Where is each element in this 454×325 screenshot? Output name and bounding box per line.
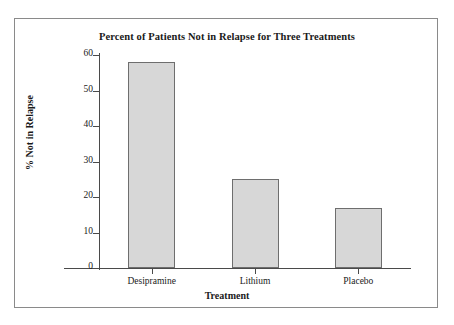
cut-off-text: ·· ···· ·· ·· bbox=[36, 0, 81, 3]
x-axis-tick bbox=[255, 269, 256, 274]
y-axis-tick-label-wrap: 20 bbox=[25, 197, 93, 198]
y-axis-tick bbox=[93, 233, 99, 234]
chart-title: Percent of Patients Not in Relapse for T… bbox=[15, 31, 439, 42]
y-axis-tick bbox=[93, 91, 99, 92]
x-axis-tick-label: Lithium bbox=[195, 276, 315, 286]
y-axis-tick-label: 30 bbox=[33, 155, 93, 165]
bar bbox=[232, 179, 279, 268]
y-axis-tick-label-wrap: 60 bbox=[25, 55, 93, 56]
bar bbox=[335, 208, 382, 268]
plot-area bbox=[100, 55, 410, 268]
x-axis-tick-label: Desipramine bbox=[92, 276, 212, 286]
y-axis-tick bbox=[93, 268, 99, 269]
y-axis-tick bbox=[93, 55, 99, 56]
y-axis-tick-label-wrap: 10 bbox=[25, 233, 93, 234]
y-axis-tick bbox=[93, 197, 99, 198]
y-axis-tick-label: 20 bbox=[33, 190, 93, 200]
x-axis-tick bbox=[358, 269, 359, 274]
y-axis-tick bbox=[93, 126, 99, 127]
y-axis-tick-label: 60 bbox=[33, 48, 93, 58]
y-axis-tick-label-wrap: 40 bbox=[25, 126, 93, 127]
y-axis-tick bbox=[93, 162, 99, 163]
y-axis-tick-label: 10 bbox=[33, 226, 93, 236]
x-axis-tick bbox=[152, 269, 153, 274]
chart-figure-frame: Percent of Patients Not in Relapse for T… bbox=[14, 18, 438, 308]
page-top-text-sliver: ·· ···· ·· ·· bbox=[0, 0, 454, 8]
bar bbox=[128, 62, 175, 268]
y-axis-label: % Not in Relapse bbox=[24, 53, 35, 213]
x-axis-label: Treatment bbox=[15, 290, 439, 301]
x-axis-tick-label: Placebo bbox=[298, 276, 418, 286]
y-axis-tick-label: 40 bbox=[33, 119, 93, 129]
y-axis-tick-label: 0 bbox=[33, 261, 93, 271]
y-axis-tick-label: 50 bbox=[33, 84, 93, 94]
y-axis-tick-label-wrap: 30 bbox=[25, 162, 93, 163]
y-axis-tick-label-wrap: 50 bbox=[25, 91, 93, 92]
y-axis-tick-label-wrap: 0 bbox=[25, 268, 93, 269]
